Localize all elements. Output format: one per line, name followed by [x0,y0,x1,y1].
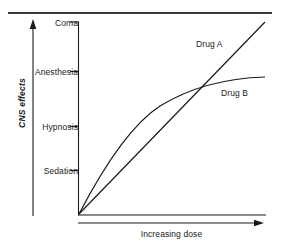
y-tick-label-hypnosis: Hypnosis [42,122,78,132]
y-tick-label-sedation: Sedation [44,166,78,176]
x-axis-title: Increasing dose [78,229,265,239]
cns-effects-axis-arrow [30,19,37,216]
y-axis-tick-marks [70,22,79,171]
y-tick-label-coma: Coma [55,18,78,28]
series-line-drug-a [79,22,265,214]
series-label-drug-b: Drug B [221,88,248,98]
y-tick-label-anesthesia: Anesthesia [35,67,78,77]
increasing-dose-axis-arrow [78,220,264,227]
y-axis-title: CNS effects [17,53,27,153]
series-label-drug-a: Drug A [196,39,223,49]
figure-canvas: Coma Anesthesia Hypnosis Sedation CNS ef… [0,0,283,248]
